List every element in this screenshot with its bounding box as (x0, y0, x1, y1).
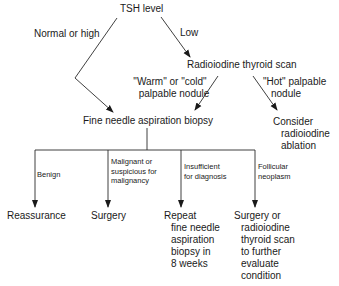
node-radioiodine-scan: Radioiodine thyroid scan (187, 59, 297, 71)
label-normal-or-high: Normal or high (34, 28, 100, 40)
node-surgery: Surgery (91, 210, 126, 222)
label-insufficient: Insufficient for diagnosis (184, 162, 227, 181)
label-hot-nodule: "Hot" palpable nodule (263, 76, 326, 100)
node-tsh-level: TSH level (120, 3, 163, 15)
node-repeat-fna: Repeat fine needle aspiration biopsy in … (164, 210, 220, 270)
label-low: Low (180, 27, 198, 39)
label-benign: Benign (37, 170, 60, 180)
node-reassurance: Reassurance (7, 210, 66, 222)
label-follicular: Follicular neoplasm (258, 162, 291, 181)
label-warm-or-cold: "Warm" or "cold" palpable nodule (124, 76, 216, 100)
node-surgery-or-scan: Surgery or radioiodine thyroid scan to f… (234, 210, 295, 282)
node-consider-ablation: Consider radioiodine ablation (273, 116, 330, 152)
node-fine-needle-aspiration: Fine needle aspiration biopsy (83, 115, 213, 127)
label-malignant: Malignant or suspicious for malignancy (111, 157, 157, 186)
